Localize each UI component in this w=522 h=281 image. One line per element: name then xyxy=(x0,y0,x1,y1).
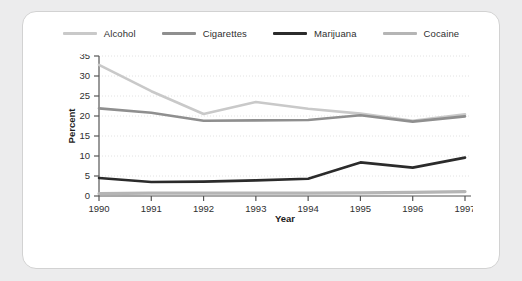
y-axis-title: Percent xyxy=(66,108,77,144)
x-tick-label: 1990 xyxy=(88,203,109,214)
x-tick-label: 1991 xyxy=(141,203,162,214)
plot-area: 05101520253035 1990199119921993199419951… xyxy=(65,54,473,226)
x-tick-label: 1996 xyxy=(402,203,423,214)
x-axis-title: Year xyxy=(275,213,295,224)
legend-item-marijuana: Marijuana xyxy=(273,28,357,39)
y-tick-label: 25 xyxy=(79,90,90,101)
legend-swatch-alcohol xyxy=(63,32,97,35)
legend-swatch-marijuana xyxy=(273,32,307,35)
legend-label-cigarettes: Cigarettes xyxy=(203,28,247,39)
x-tick-label: 1995 xyxy=(350,203,371,214)
legend-label-cocaine: Cocaine xyxy=(424,28,460,39)
y-tick-label: 10 xyxy=(79,150,90,161)
series-line-cocaine xyxy=(99,192,465,194)
x-tick-label: 1993 xyxy=(245,203,266,214)
series-lines xyxy=(99,65,465,194)
x-tick-label: 1994 xyxy=(298,203,319,214)
legend-item-cocaine: Cocaine xyxy=(383,28,460,39)
legend-swatch-cocaine xyxy=(383,32,417,35)
x-tick-label: 1992 xyxy=(193,203,214,214)
y-tick-label: 0 xyxy=(85,190,90,201)
x-tick-label: 1997 xyxy=(454,203,473,214)
legend-label-alcohol: Alcohol xyxy=(104,28,136,39)
y-tick-label: 35 xyxy=(79,54,90,61)
legend-item-cigarettes: Cigarettes xyxy=(162,28,247,39)
series-line-marijuana xyxy=(99,158,465,182)
y-axis-ticks: 05101520253035 xyxy=(79,54,99,201)
gridlines xyxy=(99,56,471,176)
legend-label-marijuana: Marijuana xyxy=(314,28,357,39)
y-tick-label: 30 xyxy=(79,70,90,81)
y-tick-label: 15 xyxy=(79,130,90,141)
y-tick-label: 20 xyxy=(79,110,90,121)
chart-legend: Alcohol Cigarettes Marijuana Cocaine xyxy=(23,28,499,39)
legend-item-alcohol: Alcohol xyxy=(63,28,136,39)
y-tick-label: 5 xyxy=(85,170,90,181)
legend-swatch-cigarettes xyxy=(162,32,196,35)
x-axis-ticks: 19901991199219931994199519961997 xyxy=(88,196,473,214)
chart-card: Alcohol Cigarettes Marijuana Cocaine 051… xyxy=(22,11,500,269)
line-chart-svg: 05101520253035 1990199119921993199419951… xyxy=(65,54,473,226)
